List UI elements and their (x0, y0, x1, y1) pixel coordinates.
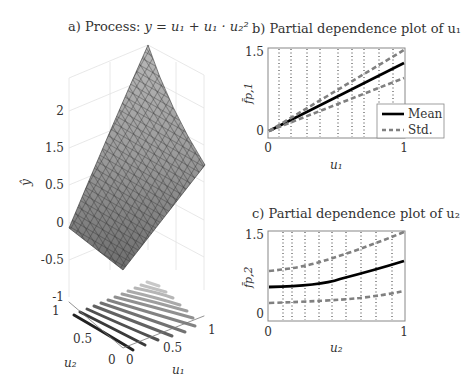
panel-c-y-label: f̄p,2 (242, 266, 255, 289)
panel-b: b) Partial dependence plot of u₁ 1.5 0 0… (242, 21, 461, 172)
u1-tick: 1 (208, 323, 216, 337)
x-tick: 0 (264, 325, 272, 339)
panel-a: a) Process: y = u₁ + u₁ · u₂² (19, 19, 249, 377)
z-tick: -1 (52, 290, 64, 304)
surface-plot (50, 30, 230, 290)
z-tick: 0.5 (45, 178, 64, 192)
z-axis-label: ŷ (19, 179, 33, 187)
y-tick: 0 (256, 124, 264, 138)
z-tick: 1.5 (45, 141, 64, 155)
u2-axis-label: u₂ (64, 356, 77, 370)
legend-mean-label: Mean (408, 107, 443, 121)
x-tick: 1 (400, 141, 408, 155)
y-tick: 1.5 (245, 45, 264, 59)
panel-b-title: b) Partial dependence plot of u₁ (252, 21, 461, 36)
u1-tick: 0.5 (163, 341, 182, 355)
u1-axis-ticks: 0 0.5 1 (126, 323, 216, 367)
z-tick: 2 (56, 104, 64, 118)
panel-a-title: a) Process: y = u₁ + u₁ · u₂² (68, 19, 249, 34)
panel-b-y-label: f̄p,1 (242, 82, 255, 105)
z-tick: -0.5 (41, 253, 64, 267)
y-tick: 0 (256, 307, 264, 321)
x-tick: 0 (264, 141, 272, 155)
u1-tick: 0 (126, 353, 134, 367)
figure: a) Process: y = u₁ + u₁ · u₂² (0, 0, 465, 388)
z-axis-ticks: 2 1.5 0.5 0 -0.5 -1 (41, 104, 64, 304)
panel-c-axes (268, 231, 405, 321)
panel-b-x-label: u₁ (330, 158, 343, 172)
legend: Mean Std. (377, 104, 444, 138)
u2-tick: 0.5 (73, 332, 92, 346)
panel-c: c) Partial dependence plot of u₂ 1.5 0 0… (242, 206, 460, 355)
panel-c-x-label: u₂ (330, 341, 343, 355)
legend-std-label: Std. (408, 123, 433, 137)
panel-c-title: c) Partial dependence plot of u₂ (252, 206, 460, 221)
z-tick: 0 (56, 216, 64, 230)
u2-tick: 1 (52, 304, 60, 318)
u1-axis-label: u₁ (172, 363, 185, 377)
u2-tick: 0 (108, 353, 116, 367)
x-tick: 1 (400, 325, 408, 339)
y-tick: 1.5 (245, 228, 264, 242)
